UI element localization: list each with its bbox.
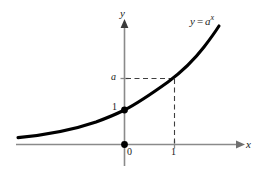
exponential-curve (18, 26, 219, 138)
point-y-intercept-dot (121, 107, 128, 114)
curve-equation-label: y=ax (190, 16, 214, 27)
equation-exponent-x: x (211, 13, 215, 22)
exponential-function-figure: y x 0 1 1 a y=ax (0, 0, 272, 186)
y-axis-arrowhead (121, 19, 129, 28)
axis-ticks (121, 79, 175, 149)
x-axis-arrowhead (236, 141, 245, 149)
equation-equals-sign: = (195, 15, 205, 27)
origin-label: 0 (127, 147, 132, 157)
y-tick-label-one: 1 (112, 102, 117, 112)
guide-lines (126, 79, 175, 144)
y-axis-label: y (120, 8, 125, 19)
plot-canvas (0, 0, 272, 186)
curve-path (18, 26, 219, 138)
x-tick-label-one: 1 (171, 147, 176, 157)
x-axis-label: x (246, 139, 251, 150)
y-tick-label-a: a (111, 72, 116, 82)
